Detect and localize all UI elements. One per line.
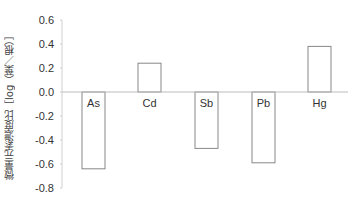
category-labels: AsCdSbPbHg — [87, 97, 326, 109]
y-tick-label: 0.2 — [39, 62, 54, 74]
y-tick-label: 0.0 — [39, 86, 54, 98]
y-tick-label: -0.2 — [35, 110, 54, 122]
category-label-sb: Sb — [200, 97, 213, 109]
category-label-pb: Pb — [257, 97, 270, 109]
category-label-as: As — [87, 97, 100, 109]
y-tick-label: -0.4 — [35, 134, 54, 146]
y-tick-label: 0.4 — [39, 38, 54, 50]
bar-hg — [308, 46, 331, 92]
bar-cd — [138, 63, 161, 92]
y-tick-label: -0.6 — [35, 158, 54, 170]
bar-chart: 0.60.40.20.0-0.2-0.4-0.6-0.8 AsCdSbPbHg — [0, 0, 358, 201]
category-label-cd: Cd — [142, 97, 156, 109]
category-label-hg: Hg — [312, 97, 326, 109]
y-tick-label: 0.6 — [39, 14, 54, 26]
y-tick-label: -0.8 — [35, 182, 54, 194]
y-axis: 0.60.40.20.0-0.2-0.4-0.6-0.8 — [35, 14, 62, 194]
